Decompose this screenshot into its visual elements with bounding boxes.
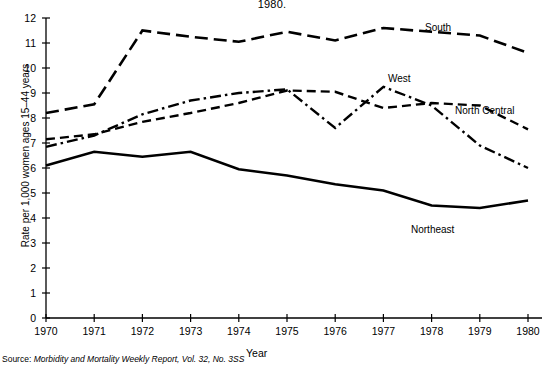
figure-title: 1980. — [0, 0, 544, 10]
y-axis-title: Rate per 1,000 women ages 15–44 years — [20, 41, 31, 271]
series-label-west: West — [388, 73, 411, 84]
x-tick-1977: 1977 — [361, 326, 405, 337]
y-tick-4: 4 — [12, 213, 36, 223]
x-tick-1973: 1973 — [169, 326, 213, 337]
plot-area — [0, 0, 544, 369]
x-tick-1971: 1971 — [72, 326, 116, 337]
axis-tick-marks — [42, 18, 528, 322]
y-tick-5: 5 — [12, 188, 36, 198]
y-tick-10: 10 — [12, 63, 36, 73]
y-tick-6: 6 — [12, 163, 36, 173]
x-tick-1980: 1980 — [506, 326, 544, 337]
y-tick-1: 1 — [12, 288, 36, 298]
series-label-northeast: Northeast — [411, 224, 454, 235]
x-axis-title: Year — [246, 347, 267, 359]
line-chart: 1980. Rate per 1,000 women ages 15–44 ye… — [0, 0, 544, 369]
series-paths — [46, 28, 528, 208]
series-label-south: South — [425, 22, 451, 33]
source-text: Morbidity and Mortality Weekly Report, V… — [34, 354, 245, 364]
source-note: Source: Morbidity and Mortality Weekly R… — [2, 354, 244, 364]
y-tick-12: 12 — [12, 13, 36, 23]
x-tick-1978: 1978 — [410, 326, 454, 337]
y-tick-3: 3 — [12, 238, 36, 248]
x-tick-1972: 1972 — [120, 326, 164, 337]
y-tick-9: 9 — [12, 88, 36, 98]
x-tick-1975: 1975 — [265, 326, 309, 337]
series-label-north-central: North Central — [455, 105, 514, 116]
series-line-south — [46, 28, 528, 113]
y-tick-0: 0 — [12, 313, 36, 323]
x-tick-1979: 1979 — [458, 326, 502, 337]
source-prefix: Source: — [2, 354, 31, 364]
y-tick-2: 2 — [12, 263, 36, 273]
x-tick-1970: 1970 — [24, 326, 68, 337]
x-tick-1974: 1974 — [217, 326, 261, 337]
y-tick-8: 8 — [12, 113, 36, 123]
y-tick-7: 7 — [12, 138, 36, 148]
series-line-northeast — [46, 152, 528, 208]
y-tick-11: 11 — [12, 38, 36, 48]
x-tick-1976: 1976 — [313, 326, 357, 337]
